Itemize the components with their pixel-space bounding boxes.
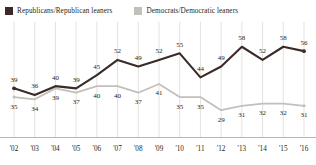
- legend-item-democrats: Democrats/Democratic leaners: [134, 7, 238, 15]
- x-tick-label: '04: [51, 145, 59, 153]
- x-tick-label: '15: [279, 145, 287, 153]
- x-tick-label: '06: [93, 145, 101, 153]
- x-tick-label: '14: [258, 145, 266, 153]
- x-tick-label: '10: [175, 145, 183, 153]
- x-axis-line: [0, 137, 316, 138]
- x-tick-label: '02: [10, 145, 18, 153]
- line-chart: Republicans/Republican leaners Democrats…: [0, 0, 316, 165]
- x-tick-label: '05: [72, 145, 80, 153]
- x-tick-label: '07: [113, 145, 121, 153]
- plot-area: 3936403945524952554449585258563534393740…: [0, 22, 316, 137]
- x-tick-label: '13: [238, 145, 246, 153]
- legend-label-republicans: Republicans/Republican leaners: [17, 7, 112, 15]
- legend-swatch-democrats: [134, 7, 142, 15]
- x-tick-label: '03: [30, 145, 38, 153]
- x-tick-label: '09: [155, 145, 163, 153]
- x-tick-label: '12: [217, 145, 225, 153]
- x-tick-label: '08: [134, 145, 142, 153]
- gridlines: [14, 22, 304, 137]
- chart-legend: Republicans/Republican leaners Democrats…: [0, 0, 316, 22]
- x-axis: '02'03'04'05'06'07'08'09'10'11'12'13'14'…: [0, 137, 316, 165]
- plot-svg: [0, 22, 316, 137]
- x-tick-label: '16: [300, 145, 308, 153]
- legend-swatch-republicans: [5, 7, 13, 15]
- legend-item-republicans: Republicans/Republican leaners: [5, 7, 112, 15]
- x-tick-label: '11: [196, 145, 204, 153]
- legend-label-democrats: Democrats/Democratic leaners: [146, 7, 238, 15]
